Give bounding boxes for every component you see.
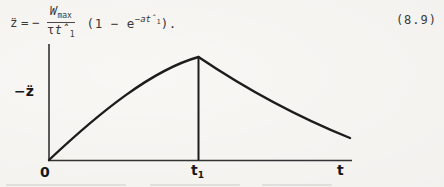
curve-decay <box>199 57 351 138</box>
t1-subscript: 1 <box>198 170 204 180</box>
y-axis-label: −z̈ <box>14 84 34 98</box>
figure-plot <box>0 0 444 187</box>
t-axis-end-label: t <box>337 163 344 177</box>
scan-artifact <box>6 184 126 186</box>
curve-rise <box>49 57 199 160</box>
t1-base: t <box>191 162 198 178</box>
t1-tick-label: t1 <box>191 163 204 180</box>
origin-label: 0 <box>40 165 50 179</box>
scanned-page: { "equation": { "lhs": "z̈", "equals": "… <box>0 0 444 187</box>
scan-artifact <box>150 184 240 186</box>
scan-artifact <box>262 184 332 186</box>
